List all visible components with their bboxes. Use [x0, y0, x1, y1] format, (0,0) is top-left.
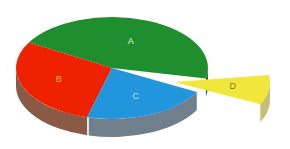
slice-label-c: C — [132, 91, 139, 101]
pie-top-faces — [16, 17, 208, 119]
slice-label-b: B — [56, 74, 62, 84]
slice-label-a: A — [128, 36, 134, 46]
pie-chart-svg: A B C D — [0, 0, 290, 149]
pie-chart-figure: A B C D — [0, 0, 290, 149]
slice-label-d: D — [229, 81, 236, 91]
